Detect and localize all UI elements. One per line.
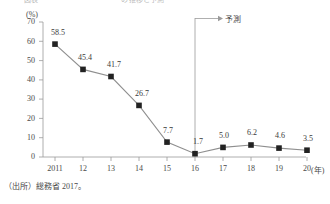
- y-tick-label-70: 70: [13, 17, 35, 26]
- x-tick-label-17: 17: [209, 164, 237, 173]
- forecast-annotation-label: 予測: [225, 13, 241, 24]
- x-tick-label-12: 12: [69, 164, 97, 173]
- source-note: （出所）総務省 2017。: [4, 180, 86, 191]
- x-tick-label-19: 19: [265, 164, 293, 173]
- data-label-13: 41.7: [107, 60, 121, 69]
- data-label-17: 5.0: [219, 131, 229, 140]
- y-tick-label-10: 10: [13, 133, 35, 142]
- data-label-20: 3.5: [303, 134, 313, 143]
- data-label-12: 45.4: [78, 53, 92, 62]
- y-tick-label-60: 60: [13, 37, 35, 46]
- data-label-15: 7.7: [163, 126, 173, 135]
- data-label-19: 4.6: [275, 131, 285, 140]
- y-tick-label-30: 30: [13, 94, 35, 103]
- y-tick-label-40: 40: [13, 75, 35, 84]
- x-tick-label-18: 18: [237, 164, 265, 173]
- x-tick-label-14: 14: [125, 164, 153, 173]
- y-axis-ticks: [39, 22, 43, 157]
- x-tick-label-13: 13: [97, 164, 125, 173]
- x-axis-ticks: [55, 157, 307, 161]
- y-tick-label-20: 20: [13, 114, 35, 123]
- data-label-14: 26.7: [135, 89, 149, 98]
- y-tick-label-0: 0: [13, 152, 35, 161]
- line-chart-canvas: [0, 0, 330, 204]
- x-axis-unit-label: (年): [311, 164, 324, 175]
- data-label-16: 1.7: [193, 137, 203, 146]
- data-series-line: [55, 44, 307, 154]
- x-tick-label-2011: 2011: [41, 164, 69, 173]
- chart-axes: [43, 22, 306, 157]
- y-tick-label-50: 50: [13, 56, 35, 65]
- data-label-18: 6.2: [247, 128, 257, 137]
- x-tick-label-16: 16: [181, 164, 209, 173]
- x-tick-label-15: 15: [153, 164, 181, 173]
- chart-figure: 図表 の推移と予測 (%): [0, 0, 330, 204]
- data-label-2011: 58.5: [51, 28, 65, 37]
